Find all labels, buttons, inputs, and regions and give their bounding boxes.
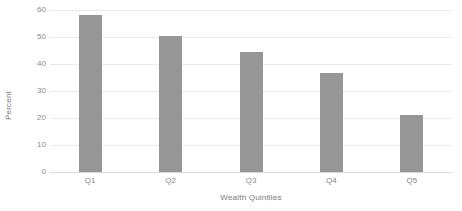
bar xyxy=(320,73,343,172)
y-axis-title: Percent xyxy=(0,0,16,211)
y-axis-tick-label: 10 xyxy=(24,141,46,149)
x-axis-tick-label: Q5 xyxy=(392,176,432,186)
bar xyxy=(79,15,102,172)
x-axis-tick-label: Q4 xyxy=(311,176,351,186)
y-axis-tick-label: 40 xyxy=(24,60,46,68)
y-axis-tick-label: 30 xyxy=(24,87,46,95)
gridline xyxy=(50,172,452,173)
y-axis-tick-label: 20 xyxy=(24,114,46,122)
y-axis-tick-label: 0 xyxy=(24,168,46,176)
bar xyxy=(159,36,182,172)
x-axis-tick-label: Q2 xyxy=(151,176,191,186)
x-axis-tick-label: Q3 xyxy=(231,176,271,186)
bar-chart: Percent 6050403020100 Q1Q2Q3Q4Q5 Wealth … xyxy=(0,0,462,211)
x-axis-tick-labels: Q1Q2Q3Q4Q5 xyxy=(50,176,452,188)
bar xyxy=(400,115,423,172)
plot-area xyxy=(50,10,452,172)
y-axis-tick-label: 60 xyxy=(24,6,46,14)
bars-layer xyxy=(50,10,452,172)
x-axis-title: Wealth Quintiles xyxy=(50,193,452,202)
bar xyxy=(240,52,263,172)
y-axis-tick-labels: 6050403020100 xyxy=(20,0,46,211)
x-axis-tick-label: Q1 xyxy=(70,176,110,186)
y-axis-tick-label: 50 xyxy=(24,33,46,41)
